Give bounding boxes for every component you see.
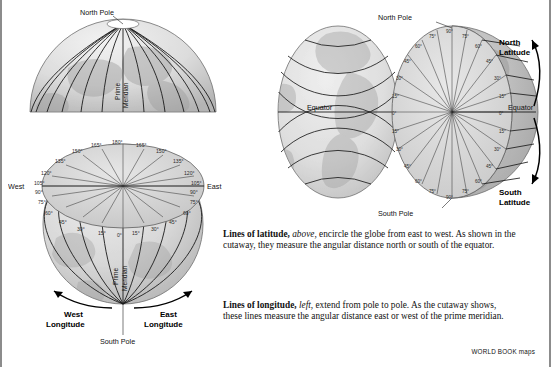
latitude-degree-n60-east: 60° <box>475 44 482 49</box>
latitude-degree-0-east: 0° <box>499 111 504 116</box>
latitude-degree-n15-east: 15° <box>499 94 506 99</box>
longitude-degree-e75: 75° <box>190 199 198 205</box>
figure-page: North Pole Prime Meridian <box>0 0 551 367</box>
latitude-degree-s30-west: 30° <box>396 147 403 152</box>
longitude-degree-w75: 75° <box>38 199 46 205</box>
latitude-caption-emphasis: above, <box>292 229 317 239</box>
latitude-degree-n75-west: 75° <box>429 34 436 39</box>
latitude-degree-s15-east: 15° <box>499 129 506 134</box>
latitude-degree-s90: 90° <box>446 195 453 200</box>
latitude-degree-n45-west: 45° <box>404 59 411 64</box>
north-latitude-label: North Latitude <box>499 38 530 57</box>
longitude-degree-w45: 45° <box>59 219 67 225</box>
latitude-degree-s30-east: 30° <box>494 147 501 152</box>
latitude-degree-n30-east: 30° <box>494 76 501 81</box>
lines-of-longitude-illustration: North Pole Prime Meridian <box>8 8 238 353</box>
equator-label-right: Equator <box>508 103 534 112</box>
longitude-degree-e15: 15° <box>132 230 140 236</box>
latitude-degree-s15-west: 15° <box>392 129 399 134</box>
latitude-caption-lead: Lines of latitude, <box>223 229 290 239</box>
south-pole-label: South Pole <box>100 337 135 346</box>
longitude-degree-w30: 30° <box>77 226 85 232</box>
longitude-degree-w165: 165° <box>91 142 102 148</box>
latitude-degree-n90: 90° <box>446 29 453 34</box>
longitude-degree-w90: 90° <box>35 189 43 195</box>
longitude-degree-e90: 90° <box>190 189 198 195</box>
latitude-degree-0-west: 0° <box>392 111 397 116</box>
longitude-degree-e135: 135° <box>173 158 184 164</box>
longitude-degree-w60: 60° <box>45 210 53 216</box>
west-longitude-label-line2: Longitude <box>46 320 85 329</box>
latitude-degree-s60-west: 60° <box>415 179 422 184</box>
latitude-degree-n60-west: 60° <box>415 44 422 49</box>
longitude-degree-e165: 165° <box>136 142 147 148</box>
latitude-degree-n45-east: 45° <box>486 59 493 64</box>
east-longitude-label-line2: Longitude <box>144 320 183 329</box>
prime-meridian-label-bottom-line2: Meridian <box>121 265 128 291</box>
longitude-degree-e45: 45° <box>169 219 177 225</box>
east-longitude-label-line1: East <box>160 310 177 319</box>
latitude-degree-s60-east: 60° <box>475 179 482 184</box>
east-label: East <box>207 182 221 191</box>
latitude-degree-s45-west: 45° <box>404 164 411 169</box>
longitude-caption-emphasis: left, <box>299 300 313 310</box>
longitude-caption-lead: Lines of longitude, <box>223 300 297 310</box>
longitude-degree-e150: 150° <box>156 148 167 154</box>
prime-meridian-label-top-line2: Meridian <box>122 82 129 108</box>
prime-meridian-label-bottom-line1: Prime <box>112 267 119 285</box>
latitude-degree-n75-east: 75° <box>462 34 469 39</box>
north-pole-label: North Pole <box>80 8 114 17</box>
longitude-degree-e120: 120° <box>184 170 195 176</box>
longitude-degree-w150: 150° <box>72 148 83 154</box>
longitude-degree-180: 180° <box>112 139 123 145</box>
latitude-degree-s75-west: 75° <box>429 189 436 194</box>
south-pole-label-right: South Pole <box>378 209 413 218</box>
prime-meridian-label-top-line1: Prime <box>114 82 121 100</box>
latitude-degree-n15-west: 15° <box>392 94 399 99</box>
longitude-degree-w15: 15° <box>98 230 106 236</box>
longitude-caption: Lines of longitude, left, extend from po… <box>223 300 515 323</box>
latitude-caption: Lines of latitude, above, encircle the g… <box>223 229 527 252</box>
longitude-degree-0: 0° <box>117 232 122 238</box>
publisher-credit: WORLD BOOK maps <box>471 348 535 355</box>
longitude-degree-e30: 30° <box>151 226 159 232</box>
latitude-degree-s45-east: 45° <box>486 164 493 169</box>
longitude-degree-w120: 120° <box>41 170 52 176</box>
latitude-degree-s75-east: 75° <box>462 189 469 194</box>
west-longitude-label-line1: West <box>64 310 83 319</box>
longitude-degree-e105: 105° <box>191 180 202 186</box>
north-pole-label-right: North Pole <box>378 13 412 22</box>
longitude-degree-w105: 105° <box>34 180 45 186</box>
longitude-degree-e60: 60° <box>183 210 191 216</box>
equator-label-left: Equator <box>307 103 333 112</box>
west-label: West <box>8 182 24 191</box>
south-latitude-label: South Latitude <box>499 188 530 207</box>
longitude-degree-w135: 135° <box>55 158 66 164</box>
latitude-degree-n30-west: 30° <box>396 76 403 81</box>
